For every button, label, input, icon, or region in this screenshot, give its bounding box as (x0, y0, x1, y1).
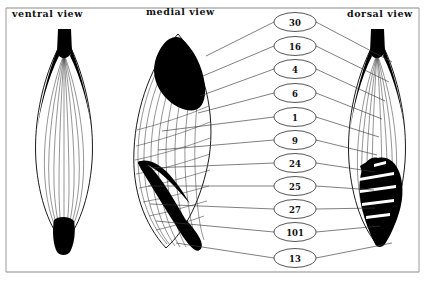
dorsal-view-title: dorsal view (347, 8, 413, 19)
node-6[interactable]: 6 (274, 84, 316, 103)
node-label: 30 (289, 18, 301, 28)
node-27[interactable]: 27 (274, 200, 316, 219)
node-label: 1 (292, 113, 298, 123)
node-label: 16 (289, 42, 301, 52)
node-9[interactable]: 9 (274, 131, 316, 150)
node-label: 6 (292, 89, 298, 99)
node-1[interactable]: 1 (274, 108, 316, 127)
node-label-column: 3016461924252710113 (274, 13, 316, 268)
ventral-proximal-tendon-blob (57, 29, 72, 58)
node-label: 101 (286, 228, 304, 238)
node-25[interactable]: 25 (274, 177, 316, 196)
node-label: 4 (292, 65, 298, 75)
node-101[interactable]: 101 (274, 223, 316, 242)
node-4[interactable]: 4 (274, 60, 316, 79)
node-label: 9 (292, 136, 298, 146)
node-label: 24 (289, 159, 301, 169)
dorsal-proximal-tendon-blob (370, 29, 385, 58)
node-30[interactable]: 30 (274, 13, 316, 32)
figure-container: ventral view (0, 0, 425, 283)
node-16[interactable]: 16 (274, 37, 316, 56)
node-label: 13 (289, 254, 301, 264)
node-label: 27 (289, 205, 301, 215)
node-label: 25 (289, 182, 301, 192)
medial-view-title: medial view (146, 6, 215, 17)
node-24[interactable]: 24 (274, 154, 316, 173)
ventral-view-title: ventral view (11, 8, 83, 19)
node-13[interactable]: 13 (274, 249, 316, 268)
anatomical-views-figure: ventral view (0, 0, 425, 283)
